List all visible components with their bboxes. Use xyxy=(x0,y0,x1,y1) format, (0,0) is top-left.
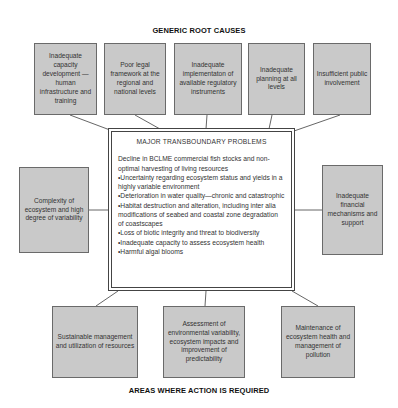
action-area-label: Maintenance of ecosystem health and mana… xyxy=(284,324,352,360)
problem-item: •Habitat destruction and alteration, inc… xyxy=(118,201,285,229)
problem-item: •Deterioration in water quality—chronic … xyxy=(118,191,285,200)
root-cause-label: Inadequate implementaton of available re… xyxy=(177,61,239,97)
connector-action-1 xyxy=(96,291,118,306)
connector-root-3 xyxy=(206,115,207,129)
problems-title: MAJOR TRANSBOUNDARY PROBLEMS xyxy=(118,137,285,146)
side-cause-financial: Inadequate financial mechanisms and supp… xyxy=(322,165,383,255)
root-cause-legal-framework: Poor legal framework at the regional and… xyxy=(104,43,166,115)
root-cause-planning: Inadequate planning at all levels xyxy=(248,43,305,115)
action-area-ecosystem-health: Maintenance of ecosystem health and mana… xyxy=(281,306,355,378)
root-cause-implementation: Inadequate implementaton of available re… xyxy=(174,43,242,115)
connector-root-1 xyxy=(70,115,110,130)
root-causes-heading: GENERIC ROOT CAUSES xyxy=(0,26,398,35)
root-cause-label: Inadequate capacity development —human i… xyxy=(37,52,94,105)
side-cause-complexity: Complexity of ecosystem and high degree … xyxy=(19,167,89,253)
connector-action-3 xyxy=(292,291,318,306)
problem-item: •Inadequate capacity to assess ecosystem… xyxy=(118,238,285,247)
side-cause-label: Complexity of ecosystem and high degree … xyxy=(22,197,86,224)
root-cause-label: Insufficient public involvement xyxy=(316,70,368,88)
root-cause-label: Poor legal framework at the regional and… xyxy=(107,61,163,97)
problem-item: Decline in BCLME commercial fish stocks … xyxy=(118,154,285,173)
problem-item: •Uncertainty regarding ecosystem status … xyxy=(118,173,285,192)
root-cause-public-involvement: Insufficient public involvement xyxy=(313,43,371,115)
action-area-label: Assessment of environmental variability,… xyxy=(166,320,242,364)
action-areas-heading: AREAS WHERE ACTION IS REQUIRED xyxy=(0,386,398,395)
connector-action-2 xyxy=(205,291,206,306)
connector-root-4 xyxy=(269,115,272,129)
side-cause-label: Inadequate financial mechanisms and supp… xyxy=(325,192,380,228)
action-area-sustainable-management: Sustainable management and utilization o… xyxy=(52,306,138,378)
major-transboundary-problems-box: MAJOR TRANSBOUNDARY PROBLEMS Decline in … xyxy=(108,128,295,291)
root-cause-label: Inadequate planning at all levels xyxy=(251,66,302,93)
problem-item: •Loss of biotic integrity and threat to … xyxy=(118,228,285,237)
action-area-label: Sustainable management and utilization o… xyxy=(55,333,135,351)
connector-root-5 xyxy=(294,115,340,131)
problem-item: •Harmful algal blooms xyxy=(118,247,285,256)
connector-root-2 xyxy=(135,115,160,129)
root-cause-capacity: Inadequate capacity development —human i… xyxy=(34,43,97,115)
action-area-assessment: Assessment of environmental variability,… xyxy=(163,306,245,378)
